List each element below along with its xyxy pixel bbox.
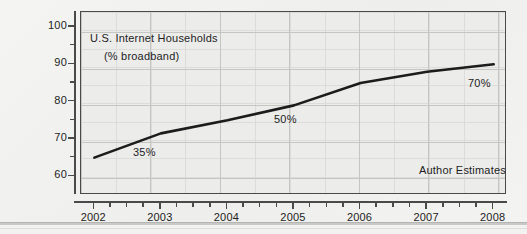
- x-axis-minor-tick: [259, 202, 261, 207]
- y-axis-minor-tick: [70, 81, 75, 83]
- data-label-50-percent: 50%: [274, 113, 297, 125]
- y-axis-tick-label: 100: [23, 19, 67, 31]
- x-axis-tick: [292, 202, 294, 209]
- x-axis-tick: [226, 202, 228, 209]
- chart-subtitle-line2: (% broadband): [104, 50, 179, 62]
- x-axis-tick: [359, 202, 361, 209]
- data-series-line: [94, 64, 493, 157]
- chart-title-line1: U.S. Internet Households: [90, 32, 218, 44]
- y-axis-tick-label: 80: [23, 94, 67, 106]
- y-axis-tick-label: 60: [23, 168, 67, 180]
- x-axis-tick: [425, 202, 427, 209]
- y-axis-tick-label: 70: [23, 131, 67, 143]
- x-axis-minor-tick: [375, 202, 377, 207]
- x-axis-minor-tick: [176, 202, 178, 207]
- x-axis-minor-tick: [475, 202, 477, 207]
- y-axis-tick: [68, 25, 75, 27]
- page-divider-rule: [0, 222, 527, 225]
- x-axis-minor-tick: [342, 202, 344, 207]
- x-axis-minor-tick: [126, 202, 128, 207]
- x-axis-minor-tick: [242, 202, 244, 207]
- source-note: Author Estimates: [419, 164, 506, 176]
- x-axis-minor-tick: [392, 202, 394, 207]
- chart-figure: 607080901002002200320042005200620072008 …: [0, 0, 527, 234]
- x-axis-tick: [492, 202, 494, 209]
- x-axis-minor-tick: [442, 202, 444, 207]
- x-axis-minor-tick: [142, 202, 144, 207]
- x-axis-tick: [93, 202, 95, 209]
- y-axis-tick-label: 90: [23, 56, 67, 68]
- y-axis-tick: [68, 100, 75, 102]
- y-axis-tick: [68, 137, 75, 139]
- y-axis-tick: [68, 63, 75, 65]
- x-axis-minor-tick: [459, 202, 461, 207]
- y-axis-tick: [68, 175, 75, 177]
- y-axis-minor-tick: [70, 44, 75, 46]
- x-axis-tick: [159, 202, 161, 209]
- data-label-70-percent: 70%: [468, 77, 491, 89]
- y-axis-minor-tick: [70, 119, 75, 121]
- x-axis-minor-tick: [209, 202, 211, 207]
- y-axis: [74, 11, 76, 194]
- data-label-35-percent: 35%: [133, 146, 156, 158]
- x-axis-minor-tick: [326, 202, 328, 207]
- x-axis-minor-tick: [409, 202, 411, 207]
- page-divider-rule-secondary: [0, 228, 527, 229]
- y-axis-minor-tick: [70, 156, 75, 158]
- x-axis-minor-tick: [309, 202, 311, 207]
- x-axis-minor-tick: [192, 202, 194, 207]
- x-axis-minor-tick: [276, 202, 278, 207]
- x-axis-minor-tick: [109, 202, 111, 207]
